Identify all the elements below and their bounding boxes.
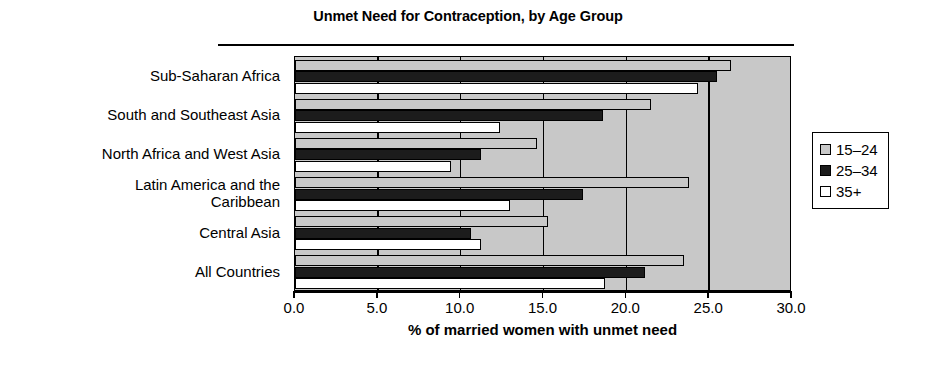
bar: [295, 71, 717, 82]
plot-area: [294, 56, 791, 291]
x-axis-tick: [459, 291, 461, 298]
legend-item[interactable]: 35+: [820, 181, 878, 202]
legend-label: 15–24: [836, 141, 878, 158]
bar-group: [295, 138, 790, 172]
y-axis-label: North Africa and West Asia: [102, 145, 280, 162]
x-axis-tick-label: 25.0: [683, 299, 733, 316]
bar: [295, 149, 481, 160]
bar: [295, 138, 537, 149]
x-axis-tick: [293, 291, 295, 298]
y-axis-label: All Countries: [195, 263, 280, 280]
legend: 15–2425–3435+: [812, 132, 889, 209]
bar-group: [295, 177, 790, 211]
bar: [295, 110, 603, 121]
bar: [295, 267, 645, 278]
bar: [295, 228, 471, 239]
y-axis-label: Latin America and theCaribbean: [135, 176, 280, 210]
legend-item[interactable]: 25–34: [820, 160, 878, 181]
x-axis-tick: [625, 291, 627, 298]
chart-title: Unmet Need for Contraception, by Age Gro…: [0, 8, 936, 24]
bar: [295, 60, 731, 71]
bar: [295, 216, 548, 227]
bar: [295, 189, 583, 200]
bar: [295, 177, 689, 188]
bar-group: [295, 99, 790, 133]
legend-label: 35+: [836, 183, 861, 200]
bar: [295, 122, 500, 133]
legend-swatch-icon: [820, 165, 831, 176]
bar-group: [295, 216, 790, 250]
legend-swatch-icon: [820, 144, 831, 155]
x-axis-tick: [542, 291, 544, 298]
legend-label: 25–34: [836, 162, 878, 179]
y-axis-label: South and Southeast Asia: [107, 106, 280, 123]
x-axis-tick: [376, 291, 378, 298]
x-axis-tick: [790, 291, 792, 298]
x-axis-tick-label: 20.0: [600, 299, 650, 316]
x-axis-tick-label: 10.0: [435, 299, 485, 316]
bar: [295, 278, 605, 289]
legend-item[interactable]: 15–24: [820, 139, 878, 160]
bar-group: [295, 60, 790, 94]
x-axis-title: % of married women with unmet need: [294, 321, 791, 338]
bar: [295, 239, 481, 250]
bar-group: [295, 255, 790, 289]
x-axis-tick-label: 0.0: [269, 299, 319, 316]
title-divider: [218, 44, 794, 46]
y-axis-label: Sub-Saharan Africa: [150, 67, 280, 84]
y-axis-label: Central Asia: [199, 224, 280, 241]
bar: [295, 83, 698, 94]
bar: [295, 161, 451, 172]
legend-swatch-icon: [820, 186, 831, 197]
x-axis-tick-label: 5.0: [352, 299, 402, 316]
bar: [295, 200, 510, 211]
y-axis-labels: Sub-Saharan AfricaSouth and Southeast As…: [20, 56, 288, 291]
bar-chart: Unmet Need for Contraception, by Age Gro…: [0, 0, 936, 374]
x-axis-tick: [707, 291, 709, 298]
bar: [295, 99, 651, 110]
bar: [295, 255, 684, 266]
x-axis-tick-label: 15.0: [518, 299, 568, 316]
x-axis-tick-label: 30.0: [766, 299, 816, 316]
